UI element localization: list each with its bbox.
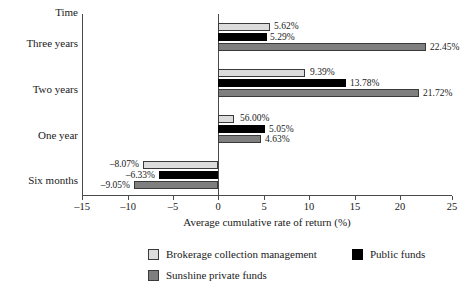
legend-label: Sunshine private funds (166, 269, 267, 281)
bar-six-months-brokerage-collection-management (143, 161, 218, 169)
bar-value-one-year-sunshine: 4.63% (265, 134, 290, 144)
x-tick-label--10: –10 (108, 201, 148, 213)
bar-chart: Time Three years Two years One year Six … (0, 0, 476, 296)
x-tick-label-25: 25 (432, 201, 472, 213)
bar-one-year-brokerage-collection-management (218, 115, 234, 123)
bar-value-two-years-sunshine: 21.72% (423, 88, 452, 98)
x-axis-title: Average cumulative rate of return (%) (82, 216, 452, 229)
y-tick-label-two-years: Two years (0, 83, 78, 95)
x-tick-mark (400, 196, 401, 200)
x-tick-label-0: 0 (198, 201, 238, 213)
x-tick-label--15: –15 (62, 201, 102, 213)
x-tick-mark (173, 196, 174, 200)
x-tick-label--5: –5 (153, 201, 193, 213)
bar-two-years-public-funds (218, 79, 346, 87)
bar-value-three-years-sunshine: 22.45% (430, 42, 459, 52)
y-axis-title: Time (0, 6, 78, 18)
bar-six-months-sunshine-private-funds (134, 181, 218, 189)
bar-two-years-brokerage-collection-management (218, 69, 305, 77)
bar-value-two-years-brokerage: 9.39% (310, 67, 335, 77)
legend-item-sunshine-private-funds: Sunshine private funds (148, 269, 267, 281)
x-tick-label-5: 5 (244, 201, 284, 213)
x-tick-label-20: 20 (380, 201, 420, 213)
legend-item-brokerage-collection-management: Brokerage collection management (148, 248, 317, 260)
y-tick-label-one-year: One year (0, 129, 78, 141)
legend-swatch-icon (352, 249, 363, 260)
bar-value-one-year-public: 5.05% (269, 124, 294, 134)
x-tick-mark (309, 196, 310, 200)
bar-one-year-sunshine-private-funds (218, 135, 261, 143)
bar-two-years-sunshine-private-funds (218, 89, 419, 97)
bar-value-six-months-brokerage: –8.07% (69, 159, 139, 169)
bar-value-three-years-brokerage: 5.62% (274, 21, 299, 31)
x-tick-mark (82, 196, 83, 200)
x-tick-label-10: 10 (289, 201, 329, 213)
bar-three-years-public-funds (218, 33, 267, 41)
bar-value-one-year-brokerage: 56.00% (240, 113, 269, 123)
legend-label: Brokerage collection management (166, 248, 317, 260)
legend-item-public-funds: Public funds (352, 248, 425, 260)
bar-value-six-months-public: –6.33% (85, 170, 155, 180)
legend-swatch-icon (148, 249, 159, 260)
x-tick-mark (355, 196, 356, 200)
x-tick-mark (264, 196, 265, 200)
bar-value-six-months-sunshine: –9.05% (60, 180, 130, 190)
zero-axis-line (218, 14, 219, 196)
bar-three-years-sunshine-private-funds (218, 43, 426, 51)
x-tick-mark (128, 196, 129, 200)
legend: Brokerage collection management Public f… (0, 248, 476, 292)
bar-value-two-years-public: 13.78% (350, 78, 379, 88)
legend-label: Public funds (370, 248, 425, 260)
bar-one-year-public-funds (218, 125, 265, 133)
bar-three-years-brokerage-collection-management (218, 23, 270, 31)
y-tick-label-three-years: Three years (0, 37, 78, 49)
x-tick-label-15: 15 (335, 201, 375, 213)
bar-six-months-public-funds (159, 171, 218, 179)
x-tick-mark (218, 196, 219, 200)
legend-swatch-icon (148, 270, 159, 281)
bar-value-three-years-public: 5.29% (270, 32, 295, 42)
x-tick-mark (452, 196, 453, 200)
